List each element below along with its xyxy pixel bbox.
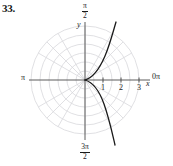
x-axis-label: x: [146, 80, 150, 88]
polar-label-right: 0π: [152, 73, 168, 81]
x-tick-label-2: 2: [117, 84, 125, 92]
fraction-denominator: 2: [80, 153, 90, 162]
x-tick-label-3: 3: [135, 84, 143, 92]
fraction-denominator: 2: [82, 12, 88, 21]
fraction-3pi-over-2: 3π 2: [80, 143, 90, 161]
polar-label-bottom: 3π 2: [74, 143, 96, 161]
polar-label-left: π: [18, 74, 28, 82]
fraction-pi-over-2: π 2: [82, 2, 88, 20]
y-axis-label: y: [77, 21, 81, 29]
polar-graph-figure: 33.: [0, 0, 173, 166]
x-tick-label-1: 1: [99, 84, 107, 92]
polar-label-top: π 2: [75, 2, 95, 20]
